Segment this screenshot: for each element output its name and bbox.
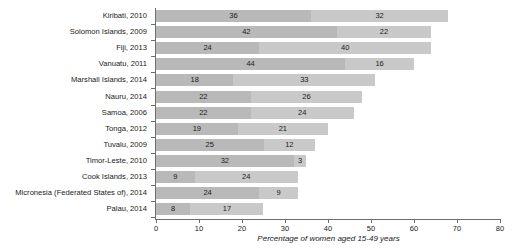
bar-value-label: 44 [156, 58, 345, 70]
bar-row: 924 [156, 171, 298, 183]
x-axis-tick [457, 219, 458, 223]
bar-value-label: 21 [238, 123, 328, 135]
category-label: Fiji, 2013 [116, 42, 147, 54]
x-axis-tick [328, 219, 329, 223]
bar-value-label: 32 [156, 155, 294, 167]
x-axis-tick-label: 20 [230, 224, 254, 233]
category-axis-labels: Kiribati, 2010Solomon Islands, 2009Fiji,… [0, 8, 152, 220]
y-axis-tick [151, 201, 155, 202]
x-axis-tick-label: 0 [144, 224, 168, 233]
category-label: Palau, 2014 [106, 203, 147, 215]
bar-value-label: 12 [264, 139, 316, 151]
y-axis-tick [151, 121, 155, 122]
y-axis-tick [151, 217, 155, 218]
x-axis-tick [500, 219, 501, 223]
bar-value-label: 24 [195, 171, 298, 183]
x-axis-tick-label: 70 [445, 224, 469, 233]
bar-value-label: 19 [156, 123, 238, 135]
bar-value-label: 36 [156, 10, 311, 22]
bar-row: 1921 [156, 123, 328, 135]
category-label: Cook Islands, 2013 [82, 171, 147, 183]
bar-row: 3632 [156, 10, 448, 22]
bar-row: 249 [156, 187, 298, 199]
bar-value-label: 22 [156, 107, 251, 119]
y-axis-tick [151, 40, 155, 41]
category-label: Vanuatu, 2011 [99, 58, 147, 70]
bar-value-label: 25 [156, 139, 264, 151]
category-label: Tuvalu, 2009 [103, 139, 147, 151]
bar-value-label: 17 [190, 203, 263, 215]
category-label: Solomon Islands, 2009 [70, 26, 147, 38]
category-label: Micronesia (Federated States of), 2014 [15, 187, 147, 199]
bar-value-label: 3 [294, 155, 307, 167]
stacked-bar-chart: Kiribati, 2010Solomon Islands, 2009Fiji,… [0, 0, 512, 249]
category-label: Nauru, 2014 [105, 91, 147, 103]
bar-value-label: 24 [251, 107, 354, 119]
x-axis-tick [242, 219, 243, 223]
x-axis-tick [285, 219, 286, 223]
bar-row: 1833 [156, 74, 375, 86]
x-axis-tick-label: 30 [273, 224, 297, 233]
category-label: Timor-Leste, 2010 [86, 155, 147, 167]
bar-value-label: 40 [259, 42, 431, 54]
category-label: Kiribati, 2010 [103, 10, 147, 22]
bar-row: 2226 [156, 91, 362, 103]
category-label: Tonga, 2012 [105, 123, 147, 135]
x-axis-tick-label: 50 [359, 224, 383, 233]
y-axis-tick [151, 169, 155, 170]
bar-value-label: 22 [156, 91, 251, 103]
y-axis-tick [151, 72, 155, 73]
bar-value-label: 9 [259, 187, 298, 199]
y-axis-tick [151, 56, 155, 57]
bar-value-label: 24 [156, 187, 259, 199]
x-axis-tick-label: 80 [488, 224, 512, 233]
bar-row: 817 [156, 203, 264, 215]
x-axis-tick [156, 219, 157, 223]
y-axis-tick [151, 105, 155, 106]
y-axis-tick [151, 88, 155, 89]
x-axis-tick [371, 219, 372, 223]
y-axis-tick [151, 137, 155, 138]
bar-row: 2512 [156, 139, 315, 151]
category-label: Marshall Islands, 2014 [71, 74, 147, 86]
bar-value-label: 24 [156, 42, 259, 54]
bar-value-label: 42 [156, 26, 337, 38]
category-label: Samoa, 2006 [102, 107, 147, 119]
bar-row: 4416 [156, 58, 414, 70]
bar-row: 4222 [156, 26, 431, 38]
x-axis-title: Percentage of women aged 15-49 years [156, 234, 501, 243]
bar-value-label: 22 [337, 26, 432, 38]
x-axis-tick [414, 219, 415, 223]
y-axis-tick [151, 24, 155, 25]
x-axis-tick [199, 219, 200, 223]
bar-value-label: 16 [345, 58, 414, 70]
bar-row: 2224 [156, 107, 354, 119]
bar-value-label: 9 [156, 171, 195, 183]
x-axis-tick-label: 10 [187, 224, 211, 233]
bar-value-label: 26 [251, 91, 363, 103]
bar-row: 2440 [156, 42, 431, 54]
bar-value-label: 32 [311, 10, 449, 22]
y-axis-tick [151, 153, 155, 154]
x-axis-tick-label: 60 [402, 224, 426, 233]
bar-row: 323 [156, 155, 307, 167]
bar-value-label: 33 [233, 74, 375, 86]
plot-area: 3632422224404416183322262224192125123239… [156, 8, 500, 220]
y-axis-tick [151, 185, 155, 186]
bar-value-label: 8 [156, 203, 190, 215]
x-axis-tick-label: 40 [316, 224, 340, 233]
bar-value-label: 18 [156, 74, 233, 86]
